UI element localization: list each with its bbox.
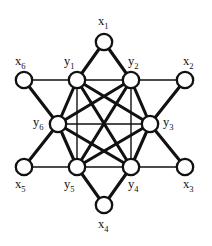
vertex-label-subscript: 6 [39,122,43,132]
graph-vertex-x3 [177,159,193,175]
vertex-label-subscript: 6 [21,61,25,71]
vertex-label-subscript: 4 [104,224,108,234]
graph-vertex-x1 [96,34,112,50]
vertex-label-y4: y4 [128,178,139,193]
vertex-label-subscript: 3 [189,184,193,194]
vertex-label-y2: y2 [128,55,139,70]
vertex-label-subscript: 1 [104,21,108,31]
graph-vertex-x6 [16,72,32,88]
vertex-label-x1: x1 [98,15,109,30]
graph-vertex-x2 [177,72,193,88]
graph-vertex-y2 [123,72,139,88]
graph-vertex-x4 [96,197,112,213]
graph-vertex-y4 [123,159,139,175]
vertex-label-subscript: 4 [134,184,138,194]
vertex-label-subscript: 5 [70,184,74,194]
vertex-label-subscript: 3 [169,122,173,132]
vertex-label-subscript: 2 [134,61,138,71]
vertex-label-x5: x5 [15,178,26,193]
vertex-label-y5: y5 [64,178,75,193]
edge-layer [24,42,185,205]
graph-canvas [0,0,212,246]
vertex-label-subscript: 2 [189,61,193,71]
vertex-label-x6: x6 [15,55,26,70]
vertex-label-y6: y6 [33,116,44,131]
vertex-label-subscript: 5 [21,184,25,194]
graph-vertex-y6 [50,116,66,132]
graph-vertex-y1 [69,72,85,88]
graph-vertex-y3 [142,116,158,132]
vertex-label-y1: y1 [64,55,75,70]
graph-vertex-y5 [69,159,85,175]
graph-figure: x1x2x3x4x5x6y1y2y3y4y5y6 [0,0,212,246]
vertex-label-y3: y3 [163,116,174,131]
vertex-label-x3: x3 [183,178,194,193]
vertex-label-x2: x2 [183,55,194,70]
vertex-label-x4: x4 [98,218,109,233]
graph-vertex-x5 [16,159,32,175]
vertex-label-subscript: 1 [70,61,74,71]
